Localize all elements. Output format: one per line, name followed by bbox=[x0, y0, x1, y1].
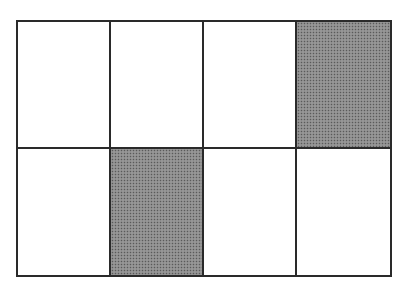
empty-cell-r1-c3 bbox=[204, 22, 297, 149]
empty-cell-r2-c1 bbox=[18, 149, 111, 276]
empty-cell-r1-c1 bbox=[18, 22, 111, 149]
shaded-cell-r2-c2 bbox=[111, 149, 204, 276]
shaded-cell-r1-c4 bbox=[297, 22, 390, 149]
empty-cell-r1-c2 bbox=[111, 22, 204, 149]
fraction-grid bbox=[16, 20, 392, 277]
empty-cell-r2-c4 bbox=[297, 149, 390, 276]
empty-cell-r2-c3 bbox=[204, 149, 297, 276]
